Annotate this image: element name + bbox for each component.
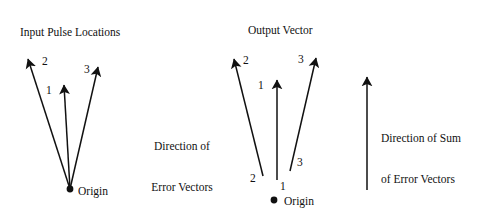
input-vector-1-label: 1 xyxy=(46,84,52,98)
input-origin-label: Origin xyxy=(78,185,108,199)
input-origin-dot xyxy=(67,186,74,193)
output-panel-title: Output Vector xyxy=(248,24,313,38)
output-panel-arrows xyxy=(234,58,316,203)
input-vector-2-arrow xyxy=(28,59,70,189)
output-origin-dot xyxy=(271,197,278,204)
output-vector-1-base-label: 1 xyxy=(280,180,286,194)
output-vector-3-base-label: 3 xyxy=(297,156,303,170)
output-vector-2-base-label: 2 xyxy=(250,172,256,186)
sum-error-vectors-note: Direction of Sum of Error Vectors xyxy=(381,105,481,214)
output-vector-2-arrow xyxy=(234,59,263,176)
vector-diagram-figure: Input Pulse Locations 1 2 3 Origin Outpu… xyxy=(0,0,481,215)
input-panel-title: Input Pulse Locations xyxy=(20,26,120,40)
input-panel-arrows xyxy=(28,59,98,192)
output-vector-3-tip-label: 3 xyxy=(298,53,304,67)
sum-error-vectors-note-line-2: of Error Vectors xyxy=(381,173,481,187)
error-vectors-note-line-2: Error Vectors xyxy=(140,181,224,195)
output-vector-2-tip-label: 2 xyxy=(243,54,249,68)
output-vector-3-arrow xyxy=(290,58,316,171)
input-vector-3-label: 3 xyxy=(84,63,90,77)
sum-error-vectors-note-line-1: Direction of Sum xyxy=(381,132,481,146)
error-vectors-note: Direction of Error Vectors xyxy=(140,113,224,215)
output-vector-1-tip-label: 1 xyxy=(258,79,264,93)
input-vector-2-label: 2 xyxy=(42,55,48,69)
input-vector-3-arrow xyxy=(70,67,98,189)
output-origin-label: Origin xyxy=(284,195,314,209)
error-vectors-note-line-1: Direction of xyxy=(140,140,224,154)
